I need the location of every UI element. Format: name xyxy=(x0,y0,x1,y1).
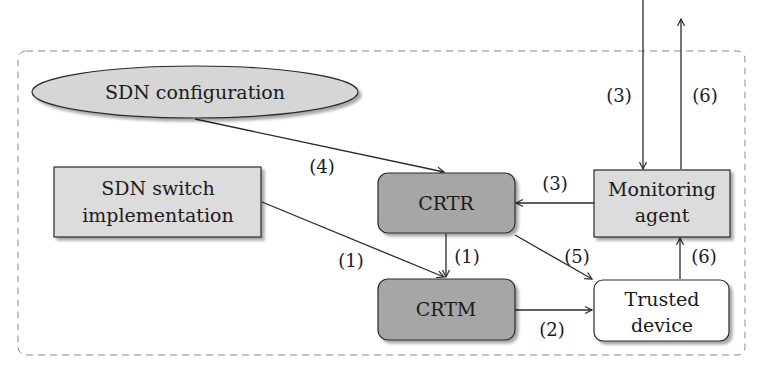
edge-label-trusted-monitor: (6) xyxy=(691,246,717,267)
edge-label-switch-crtm: (1) xyxy=(338,250,364,271)
crtr-label: CRTR xyxy=(418,192,474,214)
edge-label-config-crtr: (4) xyxy=(309,156,335,177)
trusted-device-label-line1: Trusted xyxy=(625,288,700,310)
edge-label-external-monitor: (3) xyxy=(606,85,632,106)
sdn-switch-label-line2: implementation xyxy=(82,204,233,226)
edges xyxy=(195,0,681,310)
edge-label-crtr-crtm: (1) xyxy=(454,246,480,267)
monitoring-agent-node: Monitoring agent xyxy=(594,170,730,237)
sdn-configuration-label: SDN configuration xyxy=(105,81,285,103)
edge-label-crtm-trusted: (2) xyxy=(539,319,565,340)
trusted-device-label-line2: device xyxy=(631,314,693,336)
monitoring-agent-label-line1: Monitoring xyxy=(608,178,716,200)
crtr-node: CRTR xyxy=(378,173,515,233)
trusted-device-node: Trusted device xyxy=(594,280,729,341)
sdn-configuration-node: SDN configuration xyxy=(32,66,358,118)
edge-label-monitor-external: (6) xyxy=(692,85,718,106)
edge-label-crtr-trusted: (5) xyxy=(564,246,590,267)
architecture-diagram: SDN configuration SDN switch implementat… xyxy=(0,0,763,375)
sdn-switch-node: SDN switch implementation xyxy=(54,167,261,237)
sdn-switch-label-line1: SDN switch xyxy=(101,177,215,199)
monitoring-agent-label-line2: agent xyxy=(635,204,690,226)
crtm-node: CRTM xyxy=(378,279,515,340)
crtm-label: CRTM xyxy=(416,298,477,320)
edge-label-monitor-crtr: (3) xyxy=(542,173,568,194)
